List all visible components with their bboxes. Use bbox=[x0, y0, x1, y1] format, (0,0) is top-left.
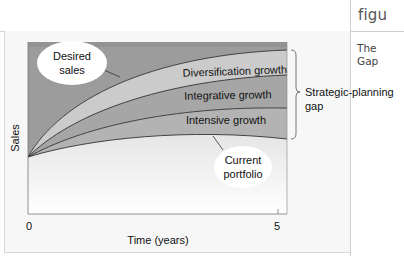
desired-sales-label-2: sales bbox=[59, 64, 85, 76]
bracket-label-2: gap bbox=[305, 100, 323, 112]
strategic-gap-diagram: Diversification growth Integrative growt… bbox=[0, 0, 404, 256]
current-portfolio-label-2: portfolio bbox=[223, 168, 262, 180]
x-axis-label: Time (years) bbox=[127, 234, 188, 246]
y-axis-label: Sales bbox=[9, 124, 21, 152]
page: figu The Gap bbox=[0, 0, 404, 256]
band-label-integrative: Integrative growth bbox=[184, 88, 272, 102]
band-label-intensive: Intensive growth bbox=[186, 114, 266, 126]
current-portfolio-label-1: Current bbox=[225, 154, 262, 166]
x-tick-label-5: 5 bbox=[274, 220, 280, 232]
current-portfolio-ellipse bbox=[214, 146, 272, 188]
gap-bracket bbox=[291, 50, 300, 139]
bracket-label-1: Strategic-planning bbox=[305, 86, 394, 98]
x-tick-label-0: 0 bbox=[26, 220, 32, 232]
desired-sales-label-1: Desired bbox=[53, 50, 91, 62]
desired-sales-ellipse bbox=[37, 41, 107, 85]
